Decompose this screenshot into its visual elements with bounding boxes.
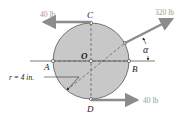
label-force-bottom: 40 lb xyxy=(143,96,158,105)
force-arrow-oblique xyxy=(125,19,172,43)
label-point-d: D xyxy=(86,104,94,114)
point-a-marker xyxy=(51,59,54,62)
label-point-a: A xyxy=(43,62,50,72)
label-alpha: α xyxy=(143,44,149,55)
label-force-oblique: 320 lb xyxy=(155,8,174,17)
label-point-c: C xyxy=(87,10,94,20)
label-point-o: O xyxy=(81,51,88,61)
label-point-b: B xyxy=(132,64,138,74)
label-radius: r = 4 in. xyxy=(9,73,34,82)
disk-force-diagram: C D A B O 40 lb 40 lb 320 lb α r = 4 in. xyxy=(0,0,189,117)
label-force-top: 40 lb xyxy=(40,10,55,19)
point-b-marker xyxy=(127,59,130,62)
point-o-marker xyxy=(89,59,92,62)
